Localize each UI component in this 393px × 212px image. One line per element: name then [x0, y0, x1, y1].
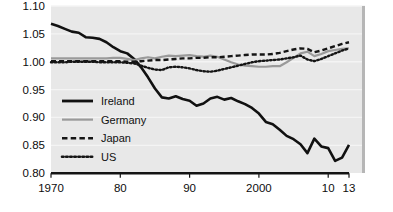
- y-tick-label: 1.05: [23, 28, 45, 40]
- legend-label-us: US: [101, 151, 116, 163]
- x-tick-label: 90: [183, 182, 196, 194]
- y-tick-label: 0.85: [23, 139, 45, 151]
- x-tick-label: 80: [114, 182, 127, 194]
- x-tick-label: 13: [343, 182, 356, 194]
- y-tick-label: 0.80: [23, 167, 45, 179]
- y-tick-label: 1.10: [23, 0, 45, 12]
- y-tick-label: 1.00: [23, 56, 45, 68]
- x-tick-label: 10: [322, 182, 335, 194]
- line-chart: 1.101.051.000.950.900.850.80 19708090200…: [0, 0, 393, 212]
- legend-label-ireland: Ireland: [101, 95, 135, 107]
- x-tick-label: 2000: [246, 182, 272, 194]
- legend-label-germany: Germany: [101, 114, 147, 126]
- chart-figure: 1.101.051.000.950.900.850.80 19708090200…: [0, 0, 393, 212]
- legend-label-japan: Japan: [101, 132, 131, 144]
- x-tick-label: 1970: [38, 182, 64, 194]
- y-tick-label: 0.95: [23, 84, 45, 96]
- y-tick-label: 0.90: [23, 111, 45, 123]
